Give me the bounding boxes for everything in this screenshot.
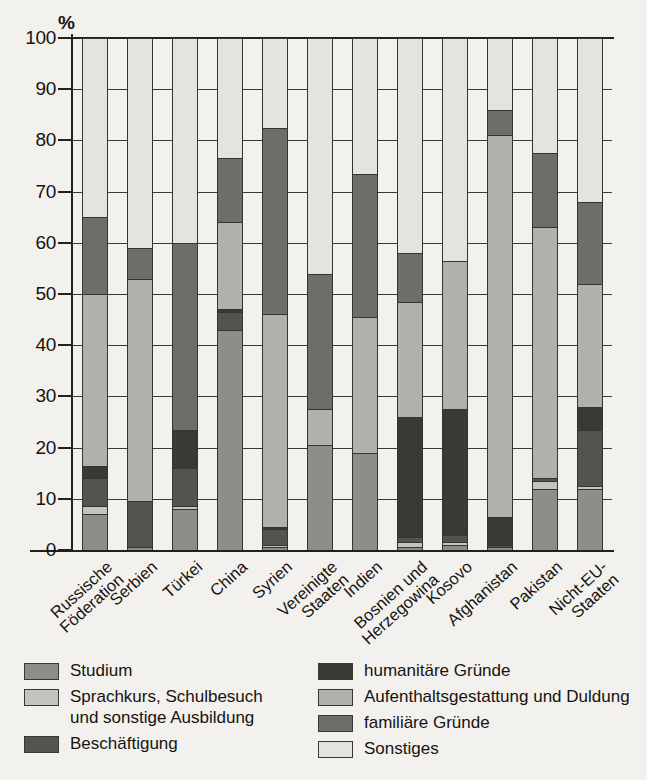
bar-segment-aufenthaltsgestattung: [83, 294, 107, 466]
bar-segment-familiaere: [308, 274, 332, 410]
bar-segment-familiaere: [173, 243, 197, 430]
y-tick-label-90: 90: [8, 79, 56, 98]
bar-segment-familiaere: [353, 174, 377, 317]
bar-segment-sonstiges: [128, 38, 152, 248]
bar-segment-aufenthaltsgestattung: [218, 222, 242, 309]
y-tick-mark-70: [58, 191, 71, 193]
bar-9[interactable]: [487, 38, 513, 550]
bar-1[interactable]: [127, 38, 153, 550]
bar-2[interactable]: [172, 38, 198, 550]
bar-segment-studium: [263, 547, 287, 550]
legend-swatch-humanitaere: [318, 663, 353, 680]
y-axis-unit-label: %: [58, 12, 75, 34]
y-tick-mark-30: [58, 395, 71, 397]
bar-segment-beschaeftigung: [443, 535, 467, 543]
x-label-line1: China: [206, 557, 250, 599]
y-tick-mark-90: [58, 88, 71, 90]
y-tick-mark-50: [58, 293, 71, 295]
chart-legend: StudiumSprachkurs, Schulbesuchund sonsti…: [0, 660, 647, 772]
bar-segment-sonstiges: [488, 38, 512, 110]
y-tick-mark-0: [58, 549, 71, 551]
legend-swatch-aufenthaltsgestattung: [318, 689, 353, 706]
bar-segment-beschaeftigung: [578, 430, 602, 486]
bar-segment-aufenthaltsgestattung: [128, 279, 152, 502]
bar-segment-studium: [578, 489, 602, 550]
bar-segment-humanitaere: [173, 430, 197, 468]
bar-6[interactable]: [352, 38, 378, 550]
bar-segment-sprachkurs: [83, 506, 107, 514]
bar-segment-studium: [218, 330, 242, 550]
bar-4[interactable]: [262, 38, 288, 550]
bar-3[interactable]: [217, 38, 243, 550]
y-tick-mark-100: [58, 37, 71, 39]
legend-label-aufenthaltsgestattung: Aufenthaltsgestattung und Duldung: [364, 686, 630, 707]
bar-segment-sonstiges: [263, 38, 287, 128]
bar-segment-sonstiges: [218, 38, 242, 158]
legend-label-familiaere: familiäre Gründe: [364, 712, 490, 733]
y-tick-label-100: 100: [8, 28, 56, 47]
bar-segment-sonstiges: [308, 38, 332, 274]
bar-segment-studium: [83, 514, 107, 550]
bar-segment-sonstiges: [353, 38, 377, 174]
plot-area: [72, 38, 612, 550]
bar-segment-beschaeftigung: [173, 468, 197, 506]
y-tick-label-20: 20: [8, 438, 56, 457]
bar-segment-sonstiges: [398, 38, 422, 253]
bar-segment-sonstiges: [443, 38, 467, 261]
bar-0[interactable]: [82, 38, 108, 550]
bar-segment-humanitaere: [83, 466, 107, 479]
legend-swatch-sonstiges: [318, 741, 353, 758]
bar-11[interactable]: [577, 38, 603, 550]
bar-segment-aufenthaltsgestattung: [578, 284, 602, 407]
bar-segment-familiaere: [128, 248, 152, 279]
y-tick-label-50: 50: [8, 284, 56, 303]
x-axis-labels: RussischeFöderationSerbienTürkeiChinaSyr…: [0, 552, 647, 652]
bar-segment-aufenthaltsgestattung: [488, 135, 512, 516]
bar-segment-studium: [398, 547, 422, 550]
bar-8[interactable]: [442, 38, 468, 550]
bar-segment-studium: [533, 489, 557, 550]
legend-label-beschaeftigung: Beschäftigung: [70, 733, 178, 754]
bar-segment-sonstiges: [533, 38, 557, 153]
legend-item-beschaeftigung[interactable]: Beschäftigung: [24, 733, 314, 754]
bar-segment-familiaere: [218, 158, 242, 222]
legend-label-sonstiges: Sonstiges: [364, 738, 439, 759]
legend-label-humanitaere: humanitäre Gründe: [364, 660, 510, 681]
legend-item-humanitaere[interactable]: humanitäre Gründe: [318, 660, 644, 681]
bar-segment-aufenthaltsgestattung: [398, 302, 422, 417]
bar-segment-humanitaere: [398, 417, 422, 537]
bar-7[interactable]: [397, 38, 423, 550]
legend-item-sprachkurs[interactable]: Sprachkurs, Schulbesuchund sonstige Ausb…: [24, 686, 314, 728]
bar-segment-familiaere: [488, 110, 512, 136]
legend-label-studium: Studium: [70, 660, 132, 681]
bar-segment-humanitaere: [578, 407, 602, 430]
y-tick-mark-60: [58, 242, 71, 244]
bar-segment-studium: [128, 547, 152, 550]
bar-segment-aufenthaltsgestattung: [443, 261, 467, 409]
legend-item-aufenthaltsgestattung[interactable]: Aufenthaltsgestattung und Duldung: [318, 686, 644, 707]
legend-item-sonstiges[interactable]: Sonstiges: [318, 738, 644, 759]
bar-segment-aufenthaltsgestattung: [263, 314, 287, 526]
legend-swatch-familiaere: [318, 715, 353, 732]
bar-segment-humanitaere: [488, 517, 512, 545]
bar-segment-aufenthaltsgestattung: [533, 227, 557, 478]
legend-column-right: humanitäre GründeAufenthaltsgestattung u…: [318, 660, 644, 764]
bar-segment-familiaere: [533, 153, 557, 227]
legend-swatch-sprachkurs: [24, 689, 59, 706]
y-tick-label-40: 40: [8, 335, 56, 354]
legend-swatch-studium: [24, 663, 59, 680]
bar-segment-sonstiges: [173, 38, 197, 243]
bar-segment-beschaeftigung: [263, 529, 287, 544]
bar-segment-studium: [353, 453, 377, 550]
bar-5[interactable]: [307, 38, 333, 550]
legend-item-familiaere[interactable]: familiäre Gründe: [318, 712, 644, 733]
y-tick-label-80: 80: [8, 130, 56, 149]
bar-segment-studium: [173, 509, 197, 550]
legend-column-left: StudiumSprachkurs, Schulbesuchund sonsti…: [24, 660, 314, 759]
y-tick-mark-20: [58, 447, 71, 449]
legend-item-studium[interactable]: Studium: [24, 660, 314, 681]
bar-10[interactable]: [532, 38, 558, 550]
bar-segment-aufenthaltsgestattung: [353, 317, 377, 453]
bar-segment-beschaeftigung: [128, 501, 152, 547]
y-tick-label-60: 60: [8, 233, 56, 252]
